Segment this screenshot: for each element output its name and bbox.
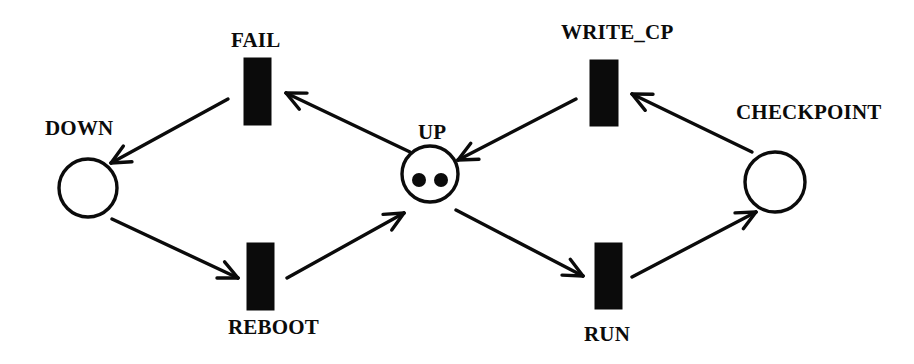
- arrowhead-barb-1: [735, 212, 756, 213]
- place-up[interactable]: [402, 146, 458, 202]
- arc-down-to-reboot: [112, 219, 238, 278]
- place-circle-up[interactable]: [402, 146, 458, 202]
- label-write_cp: WRITE_CP: [561, 22, 673, 43]
- petri-net-canvas: [0, 0, 914, 364]
- label-up: UP: [418, 122, 446, 143]
- label-checkpoint: CHECKPOINT: [736, 102, 882, 123]
- arc-shaft: [458, 99, 576, 160]
- label-run: RUN: [584, 324, 630, 345]
- arc-shaft: [286, 93, 410, 152]
- arc-shaft: [632, 94, 752, 152]
- token-up-1: [434, 173, 448, 187]
- arc-write_cp-to-up: [458, 99, 576, 160]
- transition-reboot[interactable]: [247, 243, 274, 310]
- arrowhead-barb-1: [458, 159, 479, 160]
- nodes-layer: [59, 58, 805, 310]
- place-circle-down[interactable]: [59, 159, 117, 217]
- arc-shaft: [111, 99, 228, 163]
- arrowhead-barb-0: [562, 275, 583, 276]
- arc-up-to-fail: [286, 93, 410, 152]
- arc-shaft: [112, 219, 238, 278]
- place-circle-checkpoint[interactable]: [745, 152, 805, 212]
- arc-shaft: [456, 210, 583, 276]
- place-down[interactable]: [59, 159, 117, 217]
- label-fail: FAIL: [231, 30, 280, 51]
- arrowhead-barb-1: [111, 162, 132, 163]
- transition-fail[interactable]: [244, 58, 271, 125]
- petri-net-diagram: DOWNUPCHECKPOINTFAILWRITE_CPREBOOTRUN: [0, 0, 914, 364]
- label-down: DOWN: [45, 118, 113, 139]
- transition-write_cp[interactable]: [590, 60, 618, 126]
- arc-up-to-run: [456, 210, 583, 276]
- label-reboot: REBOOT: [228, 317, 319, 338]
- arc-shaft: [287, 213, 404, 278]
- token-up-0: [412, 173, 426, 187]
- place-checkpoint[interactable]: [745, 152, 805, 212]
- arrowhead-barb-1: [383, 213, 404, 214]
- arc-fail-to-down: [111, 99, 228, 163]
- arc-reboot-to-up: [287, 213, 404, 278]
- arc-checkpoint-to-write_cp: [632, 94, 752, 152]
- arc-run-to-checkpoint: [632, 212, 756, 277]
- transition-run[interactable]: [595, 243, 622, 309]
- arc-shaft: [632, 212, 756, 277]
